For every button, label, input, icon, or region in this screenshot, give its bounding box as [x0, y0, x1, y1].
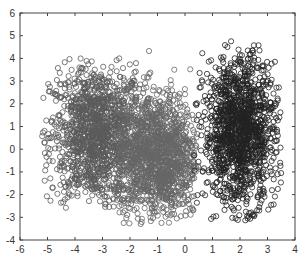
cluster-middle-points — [114, 48, 201, 226]
x-tick-label: -4 — [71, 244, 80, 255]
x-tick-label: -6 — [16, 244, 25, 255]
y-tick-label: -3 — [6, 212, 15, 223]
y-tick-label: 4 — [9, 53, 15, 64]
x-tick-label: -5 — [43, 244, 52, 255]
scatter-points — [40, 39, 284, 227]
x-tick-label: -1 — [153, 244, 162, 255]
x-tick-label: -2 — [126, 244, 135, 255]
y-tick-label: -4 — [6, 235, 15, 246]
x-tick-label: 0 — [182, 244, 188, 255]
y-tick-label: -2 — [6, 189, 15, 200]
x-tick-label: 4 — [292, 244, 298, 255]
cluster-right-points — [192, 39, 284, 223]
y-tick-label: 3 — [9, 76, 15, 87]
y-tick-label: 0 — [9, 144, 15, 155]
y-tick-label: 2 — [9, 98, 15, 109]
x-tick-label: 1 — [210, 244, 216, 255]
x-tick-label: 2 — [237, 244, 243, 255]
x-tick-label: -3 — [98, 244, 107, 255]
scatter-chart: -6-5-4-3-2-101234 -4-3-2-10123456 — [0, 0, 305, 265]
y-tick-label: 1 — [9, 121, 15, 132]
y-tick-label: 6 — [9, 8, 15, 19]
y-tick-label: 5 — [9, 30, 15, 41]
x-tick-label: 3 — [265, 244, 271, 255]
y-tick-label: -1 — [6, 166, 15, 177]
